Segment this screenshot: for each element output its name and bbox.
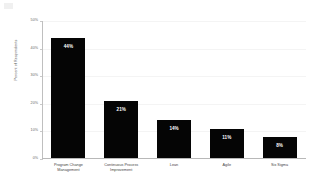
x-axis-line [42, 158, 306, 159]
plot-area: 44%21%14%11%8% [42, 21, 306, 159]
y-axis-tick-mark [40, 159, 43, 160]
y-axis-tick-label: 50% [22, 19, 38, 23]
bar-value-label: 8% [263, 144, 297, 149]
y-axis-title: Percent of Respondents [14, 12, 18, 108]
bar-value-label: 44% [51, 45, 85, 50]
scan-artifact [4, 3, 13, 9]
bar[interactable]: 21% [104, 101, 138, 159]
bar[interactable]: 44% [51, 38, 85, 159]
y-axis-tick-label: 40% [22, 47, 38, 51]
bar[interactable]: 8% [263, 137, 297, 159]
bar-value-label: 11% [210, 136, 244, 141]
bar-chart: Percent of Respondents 50%40%30%20%10%0%… [0, 0, 313, 187]
y-axis-tick-label: 30% [22, 74, 38, 78]
y-axis-tick-label: 0% [22, 157, 38, 161]
bar[interactable]: 14% [157, 120, 191, 159]
x-axis-category-label: Program ChangeManagement [42, 163, 95, 173]
y-axis-tick-label: 10% [22, 129, 38, 133]
x-axis-category-label: Agile [200, 163, 253, 168]
y-axis-tick-label: 20% [22, 102, 38, 106]
x-axis-category-label: Six Sigma [253, 163, 306, 168]
bar[interactable]: 11% [210, 129, 244, 159]
x-axis-category-label: Lean [148, 163, 201, 168]
x-axis-category-label: Continuous ProcessImprovement [95, 163, 148, 173]
bar-value-label: 21% [104, 108, 138, 113]
bar-value-label: 14% [157, 127, 191, 132]
